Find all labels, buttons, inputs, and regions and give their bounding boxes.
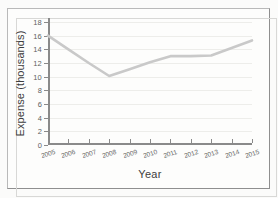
y-tick-label: 14	[33, 45, 42, 54]
x-axis-label: Year	[48, 168, 252, 180]
y-tick-label: 4	[38, 113, 42, 122]
y-tick-label: 8	[38, 86, 42, 95]
chart-figure: 024681012141618 200520062007200820092010…	[0, 0, 278, 198]
y-tick-label: 12	[33, 59, 42, 68]
y-tick-label: 2	[38, 127, 42, 136]
y-tick-label: 18	[33, 18, 42, 27]
y-tick-label: 6	[38, 100, 42, 109]
x-tick	[252, 139, 253, 143]
plot-area: 024681012141618 200520062007200820092010…	[48, 22, 252, 145]
y-tick-label: 0	[38, 141, 42, 150]
series-line	[48, 22, 252, 145]
y-tick-label: 10	[33, 72, 42, 81]
y-tick	[44, 145, 48, 146]
y-axis-label: Expense (thousands)	[14, 22, 28, 145]
y-tick-label: 16	[33, 31, 42, 40]
